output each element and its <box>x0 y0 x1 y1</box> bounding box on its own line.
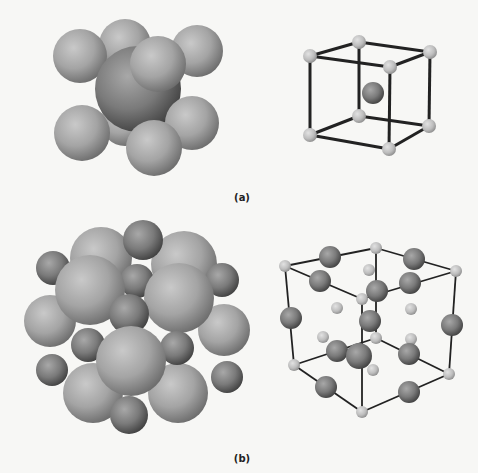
panel-b-space-filling-model <box>24 220 250 434</box>
crystal-structures-figure <box>0 0 478 473</box>
panel-a-space-filling-model <box>53 19 223 176</box>
panel-b-label: (b) <box>234 453 250 464</box>
panel-a-label: (a) <box>234 192 250 203</box>
